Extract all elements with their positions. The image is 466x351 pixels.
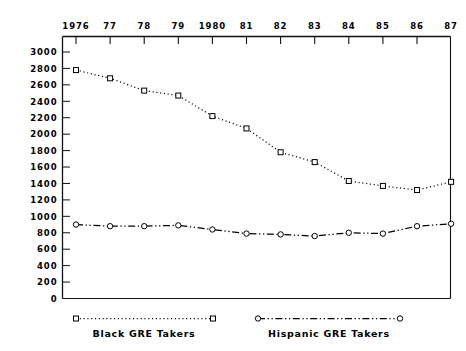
data-point [244,231,249,236]
y-tick-label: 1200 [30,195,57,205]
data-point [210,227,215,232]
data-point [142,88,147,93]
data-point [278,232,283,237]
y-tick-label: 2400 [30,97,57,107]
y-tick-label: 1600 [30,162,57,172]
y-tick-label: 2800 [30,64,57,74]
legend-marker [397,316,402,321]
gre-takers-line-chart: 1976777879198081828384858687 30002800260… [0,0,466,351]
legend-marker [211,316,216,321]
data-point [210,114,215,119]
data-point [107,223,112,228]
data-point [380,183,385,188]
y-tick-label: 1800 [30,146,57,156]
data-point [176,93,181,98]
data-point [414,223,419,228]
plot-frame [63,37,451,299]
series-line [76,224,451,236]
y-tick-label: 600 [37,244,57,254]
x-tick-label: 1980 [199,21,226,31]
series-1 [74,68,454,193]
data-point [73,222,78,227]
data-point [312,233,317,238]
y-tick-label: 2200 [30,113,57,123]
data-point [448,221,453,226]
y-axis-ticks [63,52,71,282]
y-tick-label: 1000 [30,212,57,222]
series-2 [73,221,454,239]
chart-legend: Black GRE TakersHispanic GRE Takers [74,316,403,339]
data-point [449,179,454,184]
x-tick-label: 85 [376,21,390,31]
data-series-layer [73,68,454,239]
data-point [244,126,249,131]
x-axis-ticks [76,37,417,45]
y-tick-label: 2000 [30,129,57,139]
data-point [415,188,420,193]
data-point [312,160,317,165]
y-tick-label: 2600 [30,80,57,90]
data-point [278,150,283,155]
legend-item-1[interactable]: Black GRE Takers [74,316,216,339]
y-tick-label: 800 [37,228,57,238]
legend-marker [255,316,260,321]
x-tick-label: 77 [103,21,117,31]
legend-label: Black GRE Takers [93,328,196,339]
x-tick-label: 81 [240,21,254,31]
data-point [176,223,181,228]
y-tick-label: 0 [51,294,58,304]
y-tick-label: 400 [37,261,57,271]
x-tick-label: 1976 [62,21,89,31]
y-tick-label: 200 [37,277,57,287]
legend-item-2[interactable]: Hispanic GRE Takers [255,316,402,339]
data-point [74,68,79,73]
series-line [76,70,451,190]
y-axis-tick-labels: 3000280026002400220020001800160014001200… [30,47,57,304]
x-tick-label: 83 [308,21,322,31]
x-tick-label: 82 [274,21,288,31]
x-tick-label: 87 [444,21,458,31]
x-tick-label: 78 [137,21,151,31]
data-point [142,223,147,228]
legend-label: Hispanic GRE Takers [268,328,390,339]
data-point [108,76,113,81]
y-tick-label: 3000 [30,47,57,57]
x-tick-label: 84 [342,21,356,31]
legend-marker [74,316,79,321]
x-tick-label: 79 [171,21,185,31]
data-point [380,231,385,236]
x-axis-tick-labels: 1976777879198081828384858687 [62,21,458,31]
data-point [346,230,351,235]
chart-container: 1976777879198081828384858687 30002800260… [0,0,466,351]
x-tick-label: 86 [410,21,424,31]
data-point [346,179,351,184]
y-tick-label: 1400 [30,179,57,189]
